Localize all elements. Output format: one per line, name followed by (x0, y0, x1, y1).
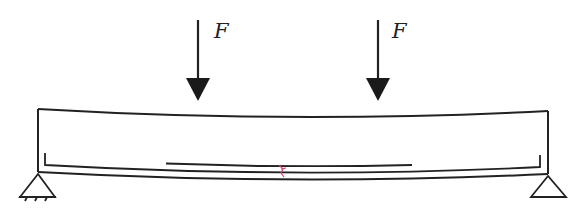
load-arrow-left-icon (186, 20, 210, 101)
load-arrow-right-icon (366, 20, 390, 101)
load-label-left: F (214, 21, 229, 42)
midspan-rebar (166, 164, 412, 167)
roller-support-icon (531, 176, 566, 197)
main-rebar (45, 153, 540, 173)
load-label-right: F (392, 21, 407, 42)
beam-diagram: F F (0, 0, 584, 208)
pinned-support-icon (19, 174, 56, 201)
